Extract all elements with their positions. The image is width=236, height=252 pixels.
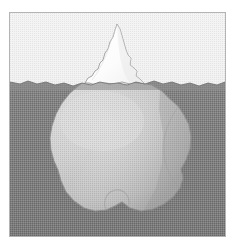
iceberg-scene: [10, 13, 225, 236]
iceberg-illustration: [10, 13, 225, 236]
sea-region: [10, 73, 225, 236]
image-frame: [9, 12, 226, 237]
illustration-canvas: Iceberg cross-section: [0, 0, 236, 252]
